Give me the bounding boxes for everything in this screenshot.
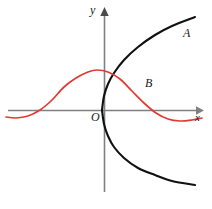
y-axis bbox=[100, 7, 108, 192]
origin-label: O bbox=[91, 111, 100, 123]
x-axis bbox=[8, 106, 204, 114]
graph-figure: y x O A B bbox=[0, 0, 212, 209]
plot-canvas bbox=[0, 0, 212, 209]
curve-b-label: B bbox=[145, 77, 152, 89]
x-axis-label: x bbox=[195, 112, 200, 123]
y-axis-label: y bbox=[90, 4, 95, 16]
y-axis-arrowhead bbox=[100, 7, 108, 16]
curve-a-upper-branch bbox=[102, 17, 195, 110]
curve-a-label: A bbox=[183, 27, 190, 39]
